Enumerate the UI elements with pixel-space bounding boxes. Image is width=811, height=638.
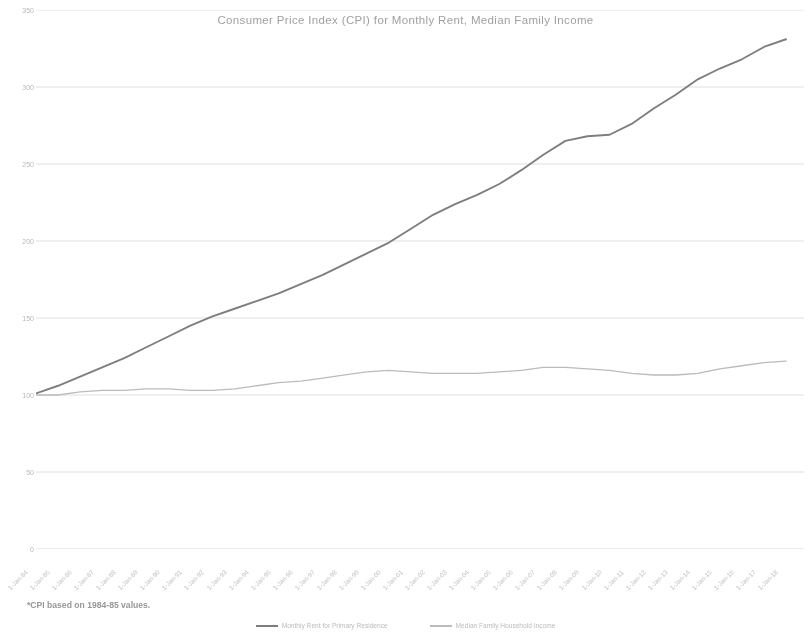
x-axis-tick-label: 1-Jan-05 (470, 569, 493, 592)
x-axis: 1-Jan-841-Jan-851-Jan-861-Jan-871-Jan-88… (36, 551, 804, 595)
legend-label-rent: Monthly Rent for Primary Residence (282, 622, 388, 629)
y-axis-tick-label: 350 (4, 7, 34, 14)
x-axis-tick-label: 1-Jan-06 (492, 569, 515, 592)
y-axis: 050100150200250300350 (0, 0, 34, 560)
y-axis-tick-label: 100 (4, 392, 34, 399)
x-axis-tick-label: 1-Jan-97 (293, 569, 316, 592)
x-axis-tick-label: 1-Jan-99 (337, 569, 360, 592)
x-axis-tick-label: 1-Jan-96 (271, 569, 294, 592)
x-axis-tick-label: 1-Jan-01 (381, 569, 404, 592)
y-axis-tick-label: 250 (4, 161, 34, 168)
plot-area (36, 10, 804, 549)
chart-legend: Monthly Rent for Primary Residence Media… (0, 622, 811, 629)
x-axis-tick-label: 1-Jan-08 (536, 569, 559, 592)
series-line-rent (36, 39, 786, 393)
legend-swatch-rent (256, 625, 278, 627)
x-axis-tick-label: 1-Jan-95 (249, 569, 272, 592)
y-axis-tick-label: 150 (4, 315, 34, 322)
x-axis-tick-label: 1-Jan-94 (227, 569, 250, 592)
x-axis-tick-label: 1-Jan-17 (734, 569, 757, 592)
x-axis-tick-label: 1-Jan-00 (359, 569, 382, 592)
x-axis-tick-label: 1-Jan-12 (624, 569, 647, 592)
series-line-income (36, 361, 786, 395)
y-axis-tick-label: 0 (4, 546, 34, 553)
legend-item-income: Median Family Household Income (430, 622, 556, 629)
x-axis-tick-label: 1-Jan-87 (72, 569, 95, 592)
x-axis-tick-label: 1-Jan-84 (6, 569, 29, 592)
x-axis-tick-label: 1-Jan-15 (690, 569, 713, 592)
x-axis-tick-label: 1-Jan-98 (315, 569, 338, 592)
y-axis-tick-label: 300 (4, 84, 34, 91)
x-axis-tick-label: 1-Jan-02 (403, 569, 426, 592)
x-axis-tick-label: 1-Jan-13 (646, 569, 669, 592)
x-axis-tick-label: 1-Jan-16 (712, 569, 735, 592)
x-axis-tick-label: 1-Jan-11 (602, 569, 624, 591)
chart-page: Consumer Price Index (CPI) for Monthly R… (0, 0, 811, 638)
x-axis-tick-label: 1-Jan-88 (95, 569, 118, 592)
legend-swatch-income (430, 625, 452, 627)
x-axis-tick-label: 1-Jan-93 (205, 569, 228, 592)
x-axis-tick-label: 1-Jan-91 (161, 569, 184, 592)
x-axis-tick-label: 1-Jan-07 (514, 569, 537, 592)
x-axis-tick-label: 1-Jan-09 (558, 569, 581, 592)
y-axis-tick-label: 50 (4, 469, 34, 476)
x-axis-tick-label: 1-Jan-85 (28, 569, 51, 592)
x-axis-tick-label: 1-Jan-04 (447, 569, 470, 592)
legend-label-income: Median Family Household Income (456, 622, 556, 629)
x-axis-tick-label: 1-Jan-86 (50, 569, 73, 592)
x-axis-tick-label: 1-Jan-03 (425, 569, 448, 592)
x-axis-tick-label: 1-Jan-18 (756, 569, 779, 592)
footnote: *CPI based on 1984-85 values. (27, 600, 150, 610)
x-axis-tick-label: 1-Jan-90 (139, 569, 162, 592)
legend-item-rent: Monthly Rent for Primary Residence (256, 622, 388, 629)
x-axis-tick-label: 1-Jan-89 (117, 569, 140, 592)
x-axis-tick-label: 1-Jan-10 (580, 569, 603, 592)
y-axis-tick-label: 200 (4, 238, 34, 245)
chart-canvas (36, 10, 804, 549)
x-axis-tick-label: 1-Jan-92 (183, 569, 206, 592)
x-axis-tick-label: 1-Jan-14 (668, 569, 691, 592)
